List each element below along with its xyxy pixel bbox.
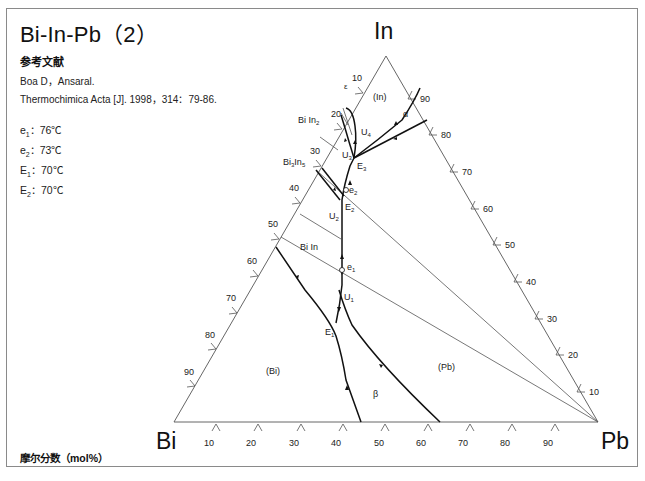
- svg-text:E1: E1: [325, 327, 335, 338]
- svg-text:e2: e2: [349, 185, 358, 196]
- svg-text:60: 60: [247, 256, 257, 266]
- svg-text:40: 40: [331, 438, 341, 448]
- left-axis-labels: 908070 605040 302010: [184, 73, 362, 377]
- svg-text:70: 70: [458, 438, 468, 448]
- svg-text:20: 20: [568, 350, 578, 360]
- svg-text:U4: U4: [361, 127, 372, 138]
- svg-text:50: 50: [505, 240, 515, 250]
- ternary-diagram: 102030 405060 708090 908070 605040 30201…: [0, 0, 645, 481]
- svg-text:90: 90: [184, 367, 194, 377]
- svg-text:80: 80: [441, 130, 451, 140]
- svg-text:60: 60: [483, 204, 493, 214]
- svg-text:10: 10: [352, 73, 362, 83]
- svg-text:Bi In2: Bi In2: [298, 115, 320, 126]
- svg-text:E3: E3: [357, 161, 367, 172]
- point-e1: [340, 268, 345, 273]
- svg-text:60: 60: [416, 438, 426, 448]
- svg-text:50: 50: [374, 438, 384, 448]
- right-axis-ticks: [408, 91, 585, 392]
- svg-text:β: β: [373, 389, 378, 399]
- univariant-lines: [276, 88, 440, 422]
- svg-text:ε: ε: [344, 82, 348, 91]
- svg-text:α: α: [403, 109, 408, 119]
- svg-text:20: 20: [246, 438, 256, 448]
- right-axis-labels: 102030 405060 708090: [420, 94, 599, 397]
- svg-text:80: 80: [205, 330, 215, 340]
- svg-text:40: 40: [526, 277, 536, 287]
- svg-text:70: 70: [226, 293, 236, 303]
- svg-text:70: 70: [462, 167, 472, 177]
- svg-text:30: 30: [310, 146, 320, 156]
- svg-text:10: 10: [204, 438, 214, 448]
- svg-text:80: 80: [500, 438, 510, 448]
- bottom-axis-labels: 102030 405060 708090: [204, 438, 553, 448]
- svg-text:20: 20: [331, 109, 341, 119]
- svg-text:U1: U1: [344, 292, 355, 303]
- svg-text:30: 30: [547, 314, 557, 324]
- direction-arrows: [296, 121, 398, 390]
- svg-text:90: 90: [420, 94, 430, 104]
- svg-text:(Pb): (Pb): [438, 362, 455, 372]
- svg-text:Bi3In5: Bi3In5: [283, 157, 306, 168]
- svg-text:(In): (In): [373, 92, 387, 102]
- svg-text:10: 10: [589, 387, 599, 397]
- left-axis-ticks: [187, 87, 363, 387]
- point-e2: [344, 188, 349, 193]
- svg-text:U2: U2: [329, 211, 340, 222]
- svg-text:30: 30: [289, 438, 299, 448]
- svg-text:90: 90: [543, 438, 553, 448]
- bottom-axis-ticks: [212, 424, 559, 431]
- svg-text:40: 40: [289, 183, 299, 193]
- point-labels: e1 e2 U1 U2 E2 E1 U3 E3 U4 Bi In2 Bi3In5…: [266, 82, 455, 399]
- svg-text:(Bi): (Bi): [266, 366, 280, 376]
- svg-text:U3: U3: [342, 150, 353, 161]
- svg-text:50: 50: [268, 219, 278, 229]
- svg-text:e1: e1: [347, 262, 356, 273]
- svg-text:Bi In: Bi In: [300, 242, 318, 252]
